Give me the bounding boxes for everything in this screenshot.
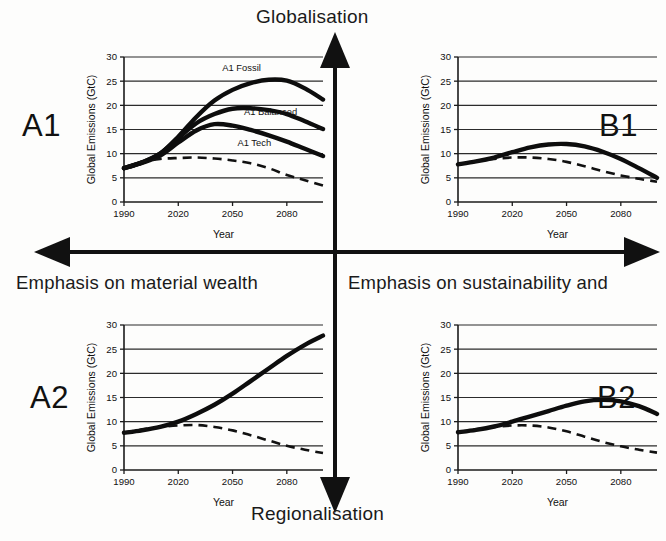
x-axis-title: Year — [547, 496, 569, 508]
ytick-label-5: 5 — [446, 172, 451, 183]
ytick-label-0: 0 — [446, 196, 451, 207]
ytick-label-0: 0 — [446, 464, 451, 475]
ytick-label-5: 5 — [112, 440, 117, 451]
chart-panel-a2: 0510152025301990202020502080YearGlobal E… — [84, 312, 329, 512]
ytick-label-10: 10 — [106, 148, 117, 159]
xtick-label-2020: 2020 — [502, 476, 523, 487]
xtick-label-2080: 2080 — [610, 208, 631, 219]
xtick-label-1990: 1990 — [113, 208, 134, 219]
x-axis-title: Year — [213, 496, 235, 508]
ytick-label-25: 25 — [106, 76, 117, 87]
xtick-label-2020: 2020 — [502, 208, 523, 219]
series-annotation-a1-tech: A1 Tech — [237, 137, 271, 148]
xtick-label-2080: 2080 — [276, 476, 297, 487]
ytick-label-10: 10 — [106, 416, 117, 427]
ytick-label-30: 30 — [440, 319, 451, 330]
axis-label-sustainability: Emphasis on sustainability and — [348, 272, 608, 294]
ytick-label-15: 15 — [106, 392, 117, 403]
xtick-label-2080: 2080 — [276, 208, 297, 219]
chart-panel-b2: 0510152025301990202020502080YearGlobal E… — [418, 312, 663, 512]
xtick-label-2050: 2050 — [556, 208, 577, 219]
ytick-label-25: 25 — [106, 344, 117, 355]
ytick-label-15: 15 — [106, 124, 117, 135]
axis-label-globalisation: Globalisation — [256, 6, 368, 28]
axis-label-material-wealth: Emphasis on material wealth — [16, 272, 258, 294]
ytick-label-5: 5 — [446, 440, 451, 451]
arrow-left-icon — [34, 237, 70, 267]
series-line-reference-dashed — [124, 158, 323, 186]
chart-panel-b1: 0510152025301990202020502080YearGlobal E… — [418, 44, 663, 244]
ytick-label-20: 20 — [440, 368, 451, 379]
xtick-label-2050: 2050 — [222, 208, 243, 219]
ytick-label-20: 20 — [440, 100, 451, 111]
ytick-label-25: 25 — [440, 344, 451, 355]
ytick-label-15: 15 — [440, 392, 451, 403]
ytick-label-20: 20 — [106, 100, 117, 111]
ytick-label-10: 10 — [440, 148, 451, 159]
xtick-label-2020: 2020 — [168, 208, 189, 219]
xtick-label-2080: 2080 — [610, 476, 631, 487]
series-line-a2 — [124, 336, 323, 433]
ytick-label-5: 5 — [112, 172, 117, 183]
ytick-label-10: 10 — [440, 416, 451, 427]
chart-panel-a1: 0510152025301990202020502080YearGlobal E… — [84, 44, 329, 244]
xtick-label-2020: 2020 — [168, 476, 189, 487]
xtick-label-1990: 1990 — [447, 208, 468, 219]
quadrant-code-a2: A2 — [30, 380, 69, 416]
xtick-label-2050: 2050 — [222, 476, 243, 487]
series-annotation-a1-fossil: A1 Fossil — [222, 62, 261, 73]
ytick-label-0: 0 — [112, 464, 117, 475]
x-axis-title: Year — [547, 228, 569, 240]
ytick-label-30: 30 — [106, 51, 117, 62]
ytick-label-15: 15 — [440, 124, 451, 135]
y-axis-title: Global Emissions (GtC) — [85, 75, 97, 185]
ytick-label-25: 25 — [440, 76, 451, 87]
y-axis-title: Global Emissions (GtC) — [419, 75, 431, 185]
y-axis-title: Global Emissions (GtC) — [85, 343, 97, 453]
xtick-label-2050: 2050 — [556, 476, 577, 487]
xtick-label-1990: 1990 — [447, 476, 468, 487]
ytick-label-20: 20 — [106, 368, 117, 379]
x-axis-title: Year — [213, 228, 235, 240]
series-annotation-a1-balanced: A1 Balanced — [244, 106, 297, 117]
xtick-label-1990: 1990 — [113, 476, 134, 487]
quadrant-code-a1: A1 — [22, 108, 61, 144]
series-line-a1-tech — [124, 124, 323, 168]
ytick-label-30: 30 — [440, 51, 451, 62]
y-axis-title: Global Emissions (GtC) — [419, 343, 431, 453]
ytick-label-0: 0 — [112, 196, 117, 207]
ytick-label-30: 30 — [106, 319, 117, 330]
